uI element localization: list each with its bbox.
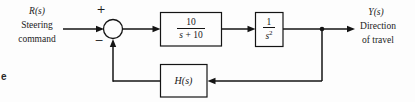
output-label-line1: Direction: [353, 21, 403, 31]
summing-junction: [104, 20, 123, 39]
plant-transfer-function: 1 s2: [263, 17, 274, 43]
input-symbol: R(s): [12, 6, 62, 16]
plant-block: 1 s2: [255, 12, 283, 47]
cropped-caption-text: e: [1, 71, 7, 82]
input-arrowhead: [96, 26, 104, 32]
input-label-line1: Steering: [7, 20, 67, 30]
feedback-block: H(s): [160, 64, 207, 97]
controller-denominator: s + 10: [177, 28, 204, 41]
feedback-into-h-arrowhead: [208, 78, 216, 84]
controller-block: 10 s + 10: [160, 12, 222, 46]
output-label-line2: of travel: [353, 35, 403, 45]
plant-denominator: s2: [263, 27, 274, 42]
plant-numerator: 1: [263, 17, 274, 28]
feedback-into-sum-arrowhead: [110, 39, 116, 47]
controller-numerator: 10: [177, 17, 204, 28]
minus-sign: −: [92, 35, 106, 46]
input-label-line2: command: [7, 34, 67, 44]
feedback-block-label: H(s): [175, 75, 193, 86]
plant-denominator-exponent: 2: [269, 29, 273, 37]
output-symbol: Y(s): [351, 7, 401, 17]
plus-sign: +: [94, 4, 108, 15]
controller-transfer-function: 10 s + 10: [177, 17, 204, 41]
block-diagram-canvas: R(s) Steering command + − 10 s + 10 1 s2…: [0, 0, 415, 102]
